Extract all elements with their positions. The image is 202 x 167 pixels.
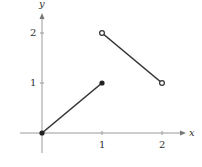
y-axis-label: y (39, 0, 45, 9)
open-point-2-1 (160, 81, 165, 86)
x-axis-arrow-icon (180, 131, 186, 136)
segment-2 (102, 33, 162, 83)
y-tick-label-2: 2 (30, 28, 36, 38)
segment-1 (42, 83, 102, 133)
x-tick-label-1: 1 (99, 140, 105, 150)
closed-point-origin (39, 130, 44, 135)
y-tick-label-1: 1 (30, 78, 36, 88)
x-axis-label: x (189, 128, 195, 138)
y-axis-arrow-icon (40, 13, 45, 19)
x-tick-label-2: 2 (159, 140, 165, 150)
open-point-1-2 (100, 31, 105, 36)
closed-point-1-1 (99, 80, 104, 85)
